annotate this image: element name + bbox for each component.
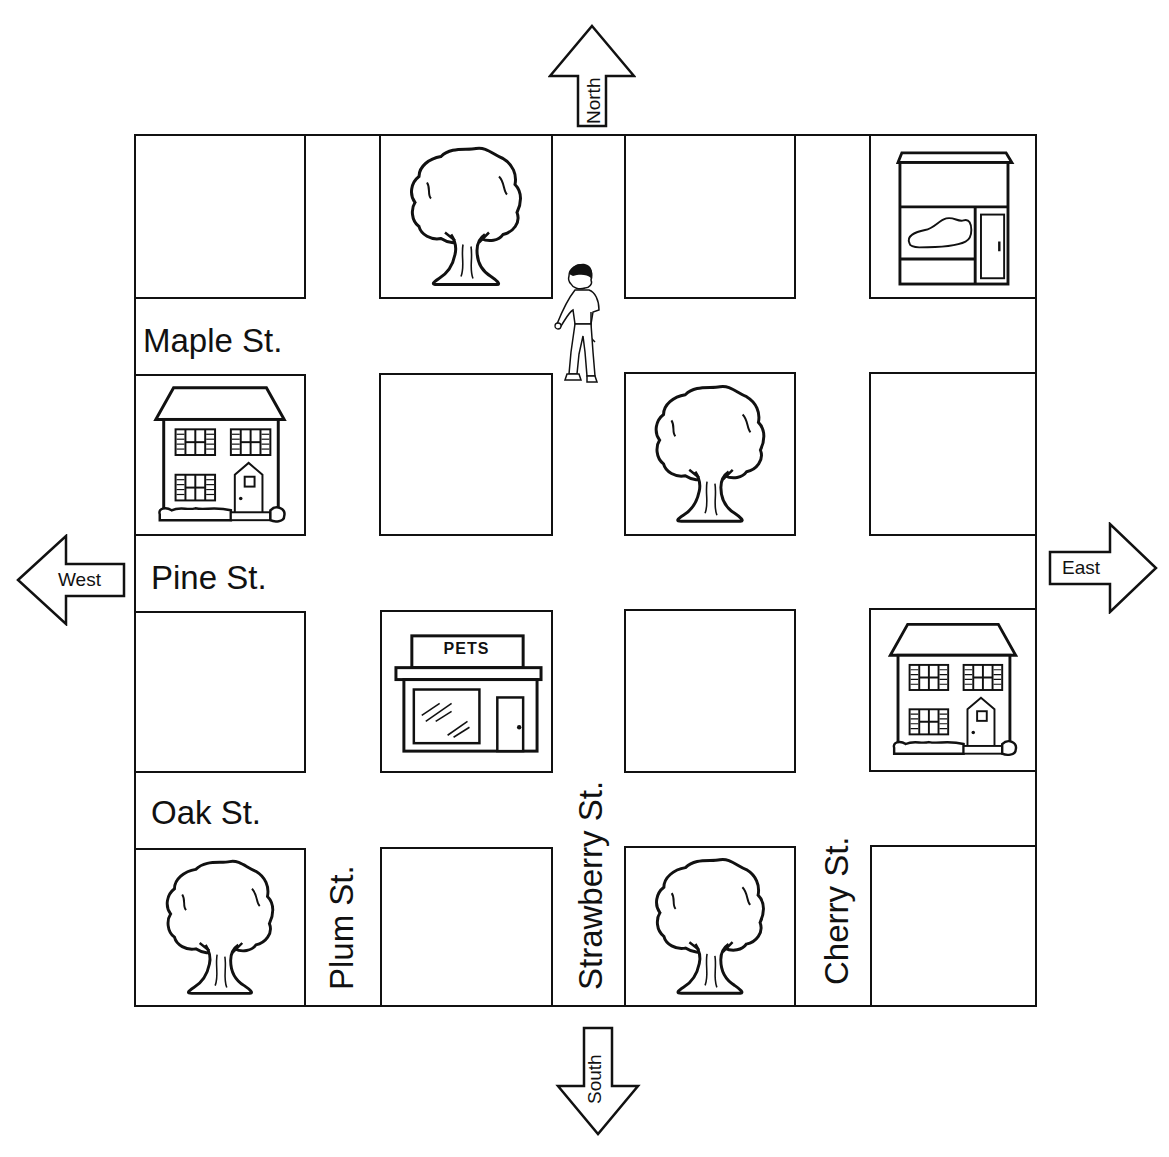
street-label-cherry: Cherry St. (820, 836, 853, 985)
block-r4c3-tree[interactable] (624, 846, 796, 1007)
tree-icon (381, 136, 551, 297)
shoe-store-icon (871, 136, 1035, 297)
block-r3c3[interactable] (624, 609, 796, 773)
block-r4c2[interactable] (380, 847, 553, 1007)
block-r2c2[interactable] (379, 373, 553, 536)
block-r3c4-house[interactable] (869, 608, 1037, 772)
block-r1c1[interactable] (134, 134, 306, 299)
block-r2c3-tree[interactable] (624, 372, 796, 536)
east-label: East (1062, 558, 1100, 577)
person-icon (553, 262, 613, 386)
block-r3c2-pet-store[interactable]: PETS (380, 610, 553, 773)
tree-icon (136, 850, 304, 1005)
street-label-oak: Oak St. (151, 796, 261, 829)
street-label-maple: Maple St. (143, 324, 282, 357)
north-label: North (584, 78, 603, 124)
house-icon (136, 376, 304, 534)
block-r1c3[interactable] (624, 134, 796, 299)
block-r2c4[interactable] (869, 372, 1037, 536)
block-r1c2-tree[interactable] (379, 134, 553, 299)
tree-icon (626, 374, 794, 534)
block-r4c1-tree[interactable] (134, 848, 306, 1007)
block-r3c1[interactable] (134, 611, 306, 773)
block-r2c1-house[interactable] (134, 374, 306, 536)
person-walking[interactable] (553, 262, 613, 386)
pet-store-icon (382, 612, 551, 771)
house-icon (871, 610, 1035, 770)
street-label-strawberry: Strawberry St. (574, 781, 607, 990)
pets-sign: PETS (382, 640, 551, 658)
tree-icon (626, 848, 794, 1005)
south-label: South (585, 1054, 604, 1104)
street-label-pine: Pine St. (151, 561, 267, 594)
street-label-plum: Plum St. (325, 865, 358, 990)
west-label: West (58, 570, 101, 589)
block-r4c4[interactable] (870, 845, 1037, 1007)
block-r1c4-shoe-store[interactable] (869, 134, 1037, 299)
